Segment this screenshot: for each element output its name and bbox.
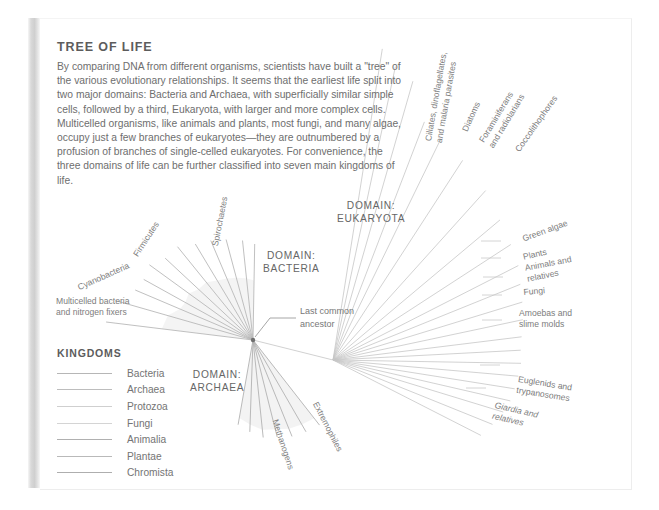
kingdom-color-swatch: [57, 472, 112, 473]
kingdom-label: Chromista: [127, 467, 173, 478]
kingdom-legend-item: Chromista: [57, 465, 227, 482]
tree-of-life-page: TREE OF LIFE By comparing DNA from diffe…: [0, 0, 659, 510]
ancestor-leader-line: [255, 318, 296, 337]
kingdom-color-swatch: [57, 373, 112, 374]
kingdom-legend-item: Fungi: [57, 415, 227, 432]
kingdom-label: Animalia: [127, 434, 166, 445]
kingdom-legend-item: Plantae: [57, 448, 227, 465]
kingdoms-legend-title: KINGDOMS: [57, 347, 122, 359]
kingdom-color-swatch: [57, 456, 112, 457]
last-common-ancestor-node: [251, 338, 255, 342]
eukaryota-branch: [333, 360, 493, 424]
branch-label-fungi: Fungi: [523, 285, 545, 297]
page-title: TREE OF LIFE: [57, 40, 153, 54]
eukaryota-branch: [333, 360, 515, 389]
intro-paragraph: By comparing DNA from different organism…: [57, 60, 401, 188]
eukaryota-branch: [333, 266, 518, 360]
kingdom-label: Protozoa: [127, 401, 168, 412]
kingdom-legend-item: Protozoa: [57, 398, 227, 415]
kingdom-color-swatch: [57, 389, 112, 390]
kingdom-color-swatch: [57, 406, 112, 407]
kingdom-label: Bacteria: [127, 368, 164, 379]
kingdom-legend-item: Animalia: [57, 431, 227, 448]
domain-label: DOMAIN: ARCHAEA: [190, 368, 244, 394]
eukaryota-branch: [333, 360, 510, 401]
branch-label-amoebas: Amoebas and slime molds: [519, 308, 572, 329]
domain-label: DOMAIN: BACTERIA: [263, 249, 320, 275]
kingdom-color-swatch: [57, 439, 112, 440]
kingdom-label: Archaea: [127, 384, 165, 395]
last-common-ancestor-label: Last common ancestor: [300, 305, 354, 330]
branch-label-multicelled-bacteria: Multicelled bacteria and nitrogen fixers: [56, 296, 130, 317]
kingdom-label: Fungi: [127, 418, 152, 429]
kingdom-label: Plantae: [127, 451, 162, 462]
kingdom-color-swatch: [57, 423, 112, 424]
domain-label: DOMAIN: EUKARYOTA: [337, 199, 405, 225]
bacteria-clade: [106, 240, 255, 341]
